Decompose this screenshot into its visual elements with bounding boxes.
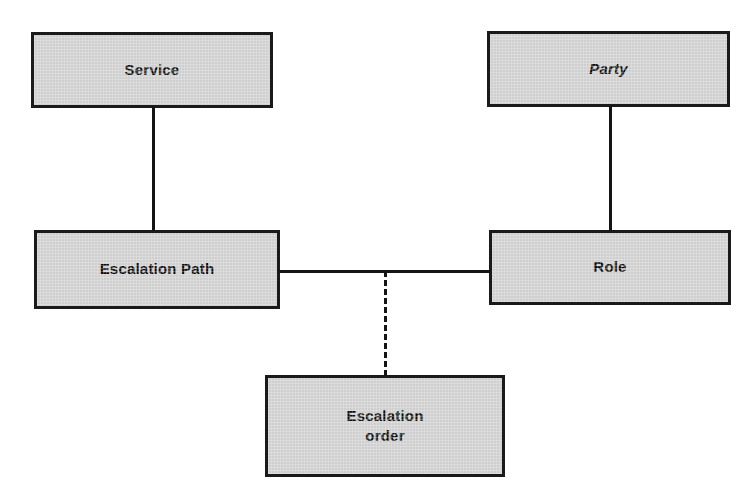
class-box-escalation-order[interactable]: Escalation order (265, 375, 505, 477)
class-box-escalation-path-label: Escalation Path (100, 259, 215, 279)
class-box-escalation-path[interactable]: Escalation Path (34, 230, 280, 309)
class-box-role[interactable]: Role (489, 230, 731, 305)
class-box-escalation-order-label: Escalation order (346, 406, 423, 447)
class-box-role-label: Role (593, 257, 626, 277)
class-box-service[interactable]: Service (31, 32, 273, 108)
class-box-party-label: Party (589, 59, 628, 79)
edge-party-to-role (609, 106, 612, 231)
edge-association-class-link (384, 271, 387, 376)
diagram-canvas: Service Party Escalation Path Role Escal… (0, 0, 756, 504)
class-box-service-label: Service (125, 60, 180, 80)
edge-service-to-escalation-path (152, 107, 155, 231)
class-box-party[interactable]: Party (487, 31, 730, 107)
